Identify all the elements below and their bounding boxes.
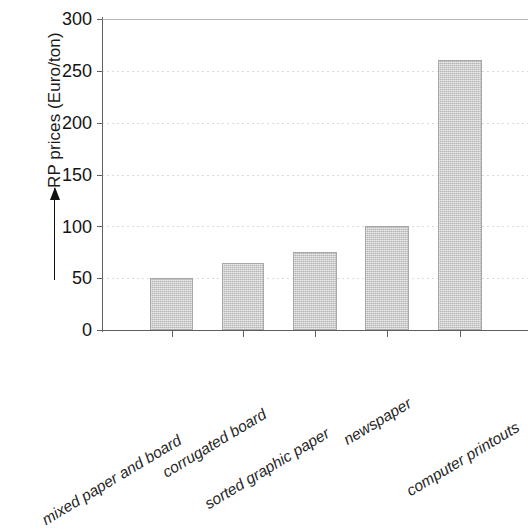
y-tick-mark (97, 175, 102, 176)
y-tick-mark (97, 330, 102, 331)
y-tick-mark (97, 19, 102, 20)
x-tick-mark (387, 331, 388, 337)
x-tick-mark (315, 331, 316, 337)
x-tick-mark (243, 331, 244, 337)
y-tick-label: 250 (46, 62, 92, 80)
y-tick-label: 50 (46, 269, 92, 287)
y-tick-label: 100 (46, 218, 92, 236)
y-tick-label: 200 (46, 114, 92, 132)
bar-sorted-graphic-paper[interactable] (293, 252, 337, 330)
bar-newspaper[interactable] (365, 226, 409, 330)
bar-mixed-paper-and-board[interactable] (150, 278, 193, 330)
plot-area (102, 19, 528, 330)
y-tick-mark (97, 226, 102, 227)
bar-computer-printouts[interactable] (438, 60, 482, 330)
gridline-300 (102, 19, 528, 20)
y-tick-label: 150 (46, 166, 92, 184)
y-tick-mark (97, 71, 102, 72)
y-tick-mark (97, 278, 102, 279)
x-tick-mark (460, 331, 461, 337)
x-tick-mark (172, 331, 173, 337)
y-tick-mark (97, 123, 102, 124)
y-axis-tick-labels: 300 250 200 150 100 50 0 (46, 0, 92, 449)
y-tick-label: 300 (46, 10, 92, 28)
bar-corrugated-board[interactable] (222, 263, 264, 330)
y-tick-label: 0 (46, 321, 92, 339)
